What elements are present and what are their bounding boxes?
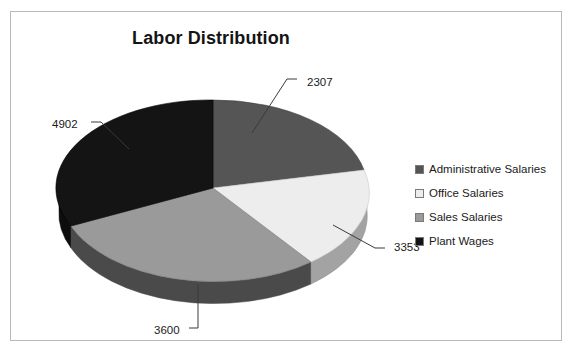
pie-top-face bbox=[56, 100, 369, 282]
legend-swatch-sales-salaries bbox=[415, 213, 424, 222]
legend-swatch-plant-wages bbox=[415, 237, 424, 246]
legend-label-plant-wages: Plant Wages bbox=[429, 235, 494, 247]
legend-item-sales-salaries: Sales Salaries bbox=[415, 205, 560, 229]
legend-item-administrative-salaries: Administrative Salaries bbox=[415, 157, 560, 181]
data-label-administrative-salaries: 2307 bbox=[307, 76, 333, 88]
legend-label-administrative-salaries: Administrative Salaries bbox=[429, 163, 546, 175]
chart-legend: Administrative Salaries Office Salaries … bbox=[415, 157, 560, 253]
data-label-sales-salaries: 3600 bbox=[154, 324, 180, 336]
legend-swatch-office-salaries bbox=[415, 189, 424, 198]
chart-frame: Labor Distribution bbox=[10, 11, 562, 341]
legend-label-office-salaries: Office Salaries bbox=[429, 187, 504, 199]
legend-item-office-salaries: Office Salaries bbox=[415, 181, 560, 205]
legend-label-sales-salaries: Sales Salaries bbox=[429, 211, 503, 223]
data-label-plant-wages: 4902 bbox=[52, 118, 78, 130]
legend-swatch-administrative-salaries bbox=[415, 165, 424, 174]
legend-item-plant-wages: Plant Wages bbox=[415, 229, 560, 253]
